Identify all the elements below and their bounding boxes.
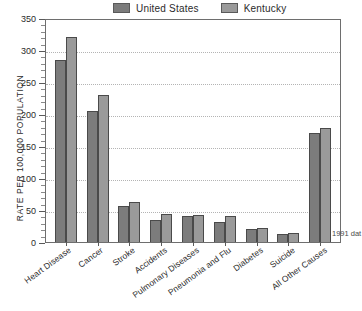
bar-kentucky xyxy=(257,228,268,242)
bar-united-states xyxy=(118,206,129,242)
legend-label-kentucky: Kentucky xyxy=(244,3,287,14)
x-axis-label: Stroke xyxy=(111,245,137,268)
x-axis-label: Heart Disease xyxy=(22,245,73,286)
bar-united-states xyxy=(55,60,66,242)
x-axis-label: Diabetes xyxy=(231,245,265,273)
y-tick-label: 0 xyxy=(2,238,36,248)
bar-group xyxy=(82,20,114,242)
y-tick-label: 200 xyxy=(2,110,36,120)
bar-group xyxy=(114,20,146,242)
plot-area xyxy=(45,19,341,243)
bar-group xyxy=(145,20,177,242)
bar-group xyxy=(241,20,273,242)
legend-swatch-united-states xyxy=(113,3,130,13)
bar-united-states xyxy=(150,220,161,242)
bar-group xyxy=(272,20,304,242)
bar-united-states xyxy=(246,229,257,242)
bar-kentucky xyxy=(193,215,204,242)
x-axis-labels: Heart DiseaseCancerStrokeAccidentsPulmon… xyxy=(45,245,341,311)
bar-kentucky xyxy=(320,128,331,242)
bar-group xyxy=(304,20,336,242)
bar-kentucky xyxy=(129,202,140,242)
x-axis-label: Cancer xyxy=(76,245,105,270)
bar-kentucky xyxy=(161,214,172,242)
y-tick-label: 150 xyxy=(2,142,36,152)
y-tick-label: 50 xyxy=(2,206,36,216)
bar-group xyxy=(50,20,82,242)
y-tick-label: 250 xyxy=(2,78,36,88)
bar-united-states xyxy=(309,133,320,242)
y-tick-label: 100 xyxy=(2,174,36,184)
bar-united-states xyxy=(87,111,98,242)
x-axis-label: All Other Causes xyxy=(270,245,329,292)
bar-group xyxy=(209,20,241,242)
legend-label-united-states: United States xyxy=(136,3,199,14)
bar-kentucky xyxy=(288,233,299,242)
bar-group xyxy=(177,20,209,242)
plot-inner xyxy=(46,20,340,242)
y-tick-label: 350 xyxy=(2,14,36,24)
bar-united-states xyxy=(277,234,288,242)
y-tick-mark xyxy=(39,243,45,244)
y-tick-label: 300 xyxy=(2,46,36,56)
bar-kentucky xyxy=(225,216,236,242)
legend-swatch-kentucky xyxy=(221,3,238,13)
bar-united-states xyxy=(182,216,193,242)
bar-kentucky xyxy=(66,37,77,242)
source-note: 1991 dat xyxy=(332,229,361,238)
legend-entry-kentucky: Kentucky xyxy=(221,3,287,14)
bar-kentucky xyxy=(98,95,109,242)
chart-legend: United States Kentucky xyxy=(113,1,286,15)
legend-entry-united-states: United States xyxy=(113,3,199,14)
bar-united-states xyxy=(214,222,225,242)
chart-page: United States Kentucky RATE PER 100,000 … xyxy=(0,0,362,311)
bar-groups xyxy=(46,20,340,242)
